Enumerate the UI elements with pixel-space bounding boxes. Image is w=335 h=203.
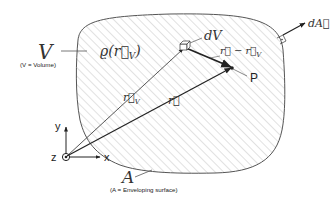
volume-integral-diagram: V (V = Volume) ϱ(r⃗V) y x z P dV r⃗ − r⃗… <box>0 0 335 203</box>
y-axis-label: y <box>55 120 61 132</box>
z-axis-label: z <box>51 151 57 163</box>
volume-region <box>76 14 284 173</box>
volume-element-label: dV <box>204 28 223 43</box>
surface-caption: (A = Enveloping surface) <box>110 186 178 193</box>
volume-element-cube-icon <box>180 41 190 50</box>
area-element-label: dA⃗ <box>308 17 330 30</box>
volume-caption: (V = Volume) <box>20 61 56 68</box>
area-element-normal-vector <box>283 23 305 35</box>
density-label: ϱ(r⃗V) <box>100 43 141 61</box>
surface-leader-line <box>135 170 152 177</box>
field-vector-label: r⃗ <box>168 94 180 107</box>
point-p-label: P <box>250 71 258 85</box>
surface-label: A <box>120 167 134 187</box>
x-axis-label: x <box>104 151 110 163</box>
